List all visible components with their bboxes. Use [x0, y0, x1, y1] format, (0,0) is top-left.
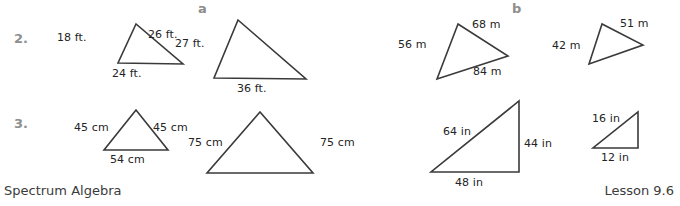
worksheet-page: a b 2. 3. 18 ft. 26 ft. 24 ft. 27 ft. 36… [0, 0, 680, 206]
label-2a-large-left: 27 ft. [175, 38, 205, 49]
footer-book-title: Spectrum Algebra [4, 184, 121, 197]
label-2b-small-top: 51 m [620, 18, 649, 29]
label-3b-small-hypotenuse: 16 in [592, 113, 620, 124]
label-2a-large-base: 36 ft. [237, 83, 267, 94]
label-3a-small-right: 45 cm [153, 122, 188, 133]
label-2b-small-left: 42 m [552, 40, 581, 51]
column-header-b: b [512, 2, 521, 15]
problem-number-2: 2. [14, 32, 28, 45]
label-3a-large-right: 75 cm [320, 137, 355, 148]
label-2a-small-left: 18 ft. [57, 32, 87, 43]
label-3b-large-base: 48 in [455, 177, 483, 188]
footer-lesson-number: Lesson 9.6 [604, 184, 674, 197]
problem-number-3: 3. [14, 117, 28, 130]
label-2b-large-top: 68 m [472, 19, 501, 30]
triangle-2b-small-outline [589, 24, 643, 64]
label-3b-large-hypotenuse: 64 in [443, 126, 471, 137]
label-3a-small-left: 45 cm [74, 122, 109, 133]
label-2a-small-base: 24 ft. [112, 68, 142, 79]
label-2b-large-base: 84 m [473, 66, 502, 77]
triangle-figures [0, 0, 680, 206]
label-3b-small-base: 12 in [601, 152, 629, 163]
triangle-3a-large-outline [207, 112, 313, 173]
label-2b-large-left: 56 m [398, 39, 427, 50]
label-3b-large-right: 44 in [524, 138, 552, 149]
label-2a-small-right: 26 ft. [148, 29, 178, 40]
label-3a-large-left: 75 cm [188, 137, 223, 148]
column-header-a: a [198, 2, 207, 15]
triangle-2a-large-outline [214, 20, 306, 79]
label-3a-small-base: 54 cm [110, 154, 145, 165]
